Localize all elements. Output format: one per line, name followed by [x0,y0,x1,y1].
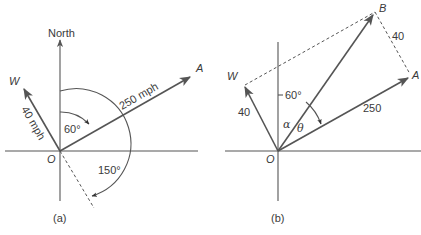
vector-a-label: A [411,69,419,81]
dashed-side-wb [245,12,375,85]
resultant-label: B [379,2,386,14]
alpha-label: α [283,118,291,131]
vector-diagram: North A 250 mph W 40 mph 60° 150° O (a) … [0,0,421,235]
vector-a-label: A [195,62,203,74]
vector-a-magnitude: 250 [363,102,381,114]
angle-arc-60 [306,102,321,124]
caption-b: (b) [271,212,284,224]
side-ba-magnitude: 40 [392,30,404,42]
vector-w-magnitude: 40 [238,106,250,118]
angle-150-label: 150° [98,164,121,176]
diagram-a: North A 250 mph W 40 mph 60° 150° O (a) [5,27,203,224]
origin-label: O [266,153,275,165]
theta-label: θ [297,122,304,135]
dashed-direction-line [60,151,94,208]
angle-60-label: 60° [64,123,81,135]
dashed-side-ba [375,12,410,74]
vector-w [245,87,278,151]
origin-label: O [47,153,56,165]
vector-w-label: W [227,70,239,82]
resultant-vector-b [278,15,373,151]
diagram-b: A 250 W 40 B 40 60° α θ O (b) [225,2,421,224]
caption-a: (a) [53,212,66,224]
vector-w-label: W [9,75,21,87]
north-label: North [48,27,75,39]
angle-60-label: 60° [285,89,302,101]
